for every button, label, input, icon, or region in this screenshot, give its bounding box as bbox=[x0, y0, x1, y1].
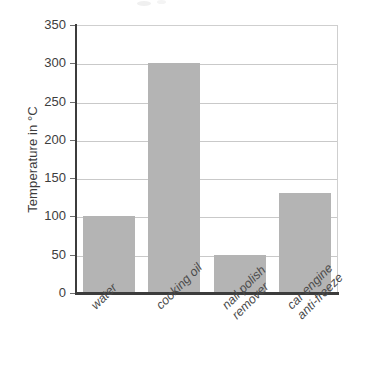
y-axis-tick-mark bbox=[70, 63, 75, 64]
y-axis-tick-label: 50 bbox=[26, 248, 66, 261]
y-axis-tick-label: 300 bbox=[26, 56, 66, 69]
gridline bbox=[76, 179, 337, 180]
y-axis-tick-label: 250 bbox=[26, 95, 66, 108]
gridline bbox=[76, 103, 337, 104]
y-axis-tick-mark bbox=[70, 25, 75, 26]
scan-artifact-speck bbox=[137, 1, 151, 6]
gridline bbox=[76, 141, 337, 142]
gridline bbox=[76, 64, 337, 65]
y-axis-tick-mark bbox=[70, 293, 75, 294]
y-axis-tick-label: 0 bbox=[26, 286, 66, 299]
y-axis-title: Temperature in °C bbox=[25, 60, 40, 260]
y-axis-spine bbox=[75, 24, 77, 294]
y-axis-tick-mark bbox=[70, 140, 75, 141]
y-axis-tick-label: 200 bbox=[26, 133, 66, 146]
y-axis-tick-mark bbox=[70, 216, 75, 217]
y-axis-tick-label: 350 bbox=[26, 18, 66, 31]
y-axis-tick-mark bbox=[70, 255, 75, 256]
scan-artifact-speck-secondary bbox=[157, 0, 166, 4]
y-axis-tick-label: 100 bbox=[26, 209, 66, 222]
bar bbox=[148, 63, 200, 293]
y-axis-tick-mark bbox=[70, 178, 75, 179]
bar-chart-figure: Temperature in °C 350300250200150100500 … bbox=[0, 0, 379, 381]
y-axis-tick-mark bbox=[70, 102, 75, 103]
y-axis-tick-label: 150 bbox=[26, 171, 66, 184]
plot-area bbox=[76, 25, 338, 293]
